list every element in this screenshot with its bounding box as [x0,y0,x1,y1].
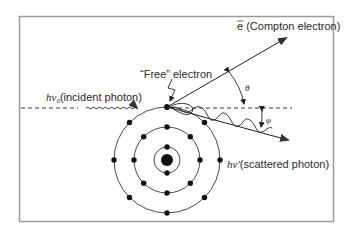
electron [141,134,146,139]
free-electron-pointer [168,79,175,101]
electron [202,195,207,200]
phi-label: φ [266,115,271,125]
electron [164,144,169,149]
nucleus [161,154,173,166]
scattered-text: (scattered photon) [240,158,329,170]
electron [197,157,202,162]
electron [188,134,193,139]
theta-label: θ [245,83,250,93]
incident-text: (incident photon) [60,91,142,103]
electron [188,181,193,186]
electron [111,157,116,162]
phi-arc [261,111,262,127]
scattered-symbol: hν′ [227,158,240,170]
compton-electron-label: e (Compton electron) [237,20,340,32]
electron [164,124,169,129]
electron [202,120,207,125]
compton-scattering-diagram: θ φ hν0(incident photon) “Free” electron… [0,0,351,229]
electron [164,210,169,215]
incident-photon-wave [86,107,137,109]
electron [217,157,222,162]
electron [127,195,132,200]
scattered-photon-label: hν′(scattered photon) [227,158,329,170]
incident-photon-label: hν0(incident photon) [46,91,142,105]
electron [164,170,169,175]
electron [127,120,132,125]
compton-text: (Compton electron) [243,20,340,32]
free-electron-label: “Free” electron [140,68,212,80]
electron [164,190,169,195]
electron [141,181,146,186]
theta-arc [229,72,244,104]
electron [131,157,136,162]
diagram-frame [20,17,334,222]
incident-symbol: hν [46,91,57,103]
